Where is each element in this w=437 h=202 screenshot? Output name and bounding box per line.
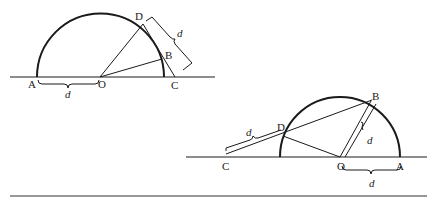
segment-OB <box>340 101 371 157</box>
brace-AO <box>38 80 99 88</box>
label-B1: B <box>165 49 172 61</box>
label-d-OA: d <box>369 177 375 189</box>
semicircle-1 <box>37 14 164 78</box>
figure-1 <box>10 14 215 89</box>
label-A2: A <box>396 160 404 172</box>
label-d-DC: d <box>177 27 183 39</box>
segment-DO <box>283 136 340 157</box>
label-D2: D <box>277 121 285 133</box>
geometry-canvas: A O B C D d d C D B O A d d d <box>0 0 437 202</box>
label-B2: B <box>372 90 379 102</box>
label-d-CD: d <box>246 126 252 138</box>
brace-OA <box>342 166 401 174</box>
label-d-OB: d <box>367 134 373 146</box>
figure-2-labels: C D B O A d d d <box>222 90 404 189</box>
diagram: A O B C D d d C D B O A d d d <box>0 0 437 202</box>
label-O1: O <box>98 78 106 90</box>
label-D1: D <box>135 10 143 22</box>
label-C1: C <box>171 79 178 91</box>
segment-OB-parallel <box>345 104 376 157</box>
segment-OB <box>100 59 162 77</box>
label-d-AO: d <box>65 88 71 100</box>
label-O2: O <box>337 160 345 172</box>
label-C2: C <box>222 160 229 172</box>
brace-CD <box>226 130 281 151</box>
label-A1: A <box>28 78 36 90</box>
segment-OD <box>100 24 143 77</box>
